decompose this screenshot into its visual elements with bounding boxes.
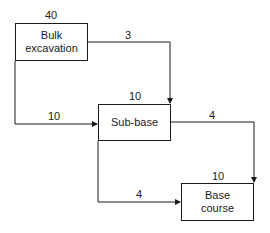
node-sub-base: Sub-base bbox=[98, 104, 171, 141]
duration-base: 10 bbox=[212, 170, 224, 182]
node-label: Base bbox=[201, 189, 234, 202]
lag-subbase-base-ss: 4 bbox=[136, 188, 142, 200]
duration-subbase: 10 bbox=[129, 90, 141, 102]
node-label: course bbox=[201, 202, 234, 215]
lag-bulk-subbase-ff: 3 bbox=[125, 29, 131, 41]
node-bulk-excavation: Bulk excavation bbox=[15, 23, 88, 61]
lag-bulk-subbase-ss: 10 bbox=[48, 110, 60, 122]
duration-bulk: 40 bbox=[45, 9, 57, 21]
node-label: Sub-base bbox=[111, 116, 158, 129]
node-base-course: Base course bbox=[181, 183, 254, 221]
lag-subbase-base-ff: 4 bbox=[209, 109, 215, 121]
node-label: excavation bbox=[25, 42, 78, 55]
node-label: Bulk bbox=[25, 29, 78, 42]
